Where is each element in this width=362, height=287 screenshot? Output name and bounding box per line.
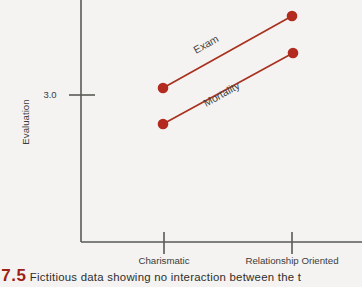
figure-container: Exam Mortality 3.0 Evaluation Charismati… bbox=[0, 0, 362, 287]
interaction-line-chart: Exam Mortality 3.0 Evaluation Charismati… bbox=[0, 0, 362, 287]
figure-caption: re 7.5 Fictitious data showing no intera… bbox=[0, 267, 362, 287]
y-tick-label-3-0: 3.0 bbox=[43, 89, 56, 100]
y-axis-title: Evaluation bbox=[20, 99, 31, 144]
data-point-exam-relationship-oriented bbox=[287, 11, 298, 22]
series-label-mortality: Mortality bbox=[201, 79, 242, 109]
series-label-exam: Exam bbox=[191, 32, 221, 56]
series-line-exam bbox=[163, 16, 292, 88]
x-label-charismatic: Charismatic bbox=[138, 255, 189, 266]
data-point-exam-charismatic bbox=[158, 83, 169, 94]
figure-number: 7.5 bbox=[0, 267, 26, 285]
figure-caption-text: Fictitious data showing no interaction b… bbox=[26, 271, 301, 283]
x-label-relationship-oriented: Relationship Oriented bbox=[245, 255, 338, 266]
data-point-mortality-relationship-oriented bbox=[288, 48, 299, 59]
data-point-mortality-charismatic bbox=[158, 119, 169, 130]
